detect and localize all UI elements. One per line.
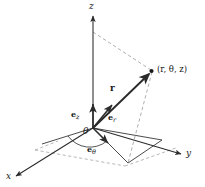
e-theta-subscript: θ [92, 148, 96, 156]
unit-vector-e-r-label: er [108, 113, 116, 122]
x-axis [16, 128, 93, 176]
figure-canvas [0, 0, 205, 187]
e-r-subscript: r [113, 116, 116, 124]
e-z-subscript: z [76, 113, 79, 121]
position-vector-r [93, 74, 149, 128]
point-coordinates-label: (r, θ, z) [157, 65, 187, 74]
point-marker-dot [149, 69, 153, 73]
position-vector-label: r [110, 84, 115, 93]
unit-vector-e-z-label: ez [71, 110, 80, 119]
z-axis-label: z [89, 2, 94, 11]
unit-vector-e-theta-label: eθ [87, 145, 96, 154]
point-label-text: (r, θ, z) [157, 64, 187, 74]
theta-angle-label: θ [83, 127, 88, 136]
x-axis-label: x [6, 172, 11, 181]
cylindrical-coordinates-figure: z y x (r, θ, z) r θ ez er eθ [0, 0, 205, 187]
y-axis-label: y [186, 149, 191, 158]
base-plane-solid-edges [42, 128, 162, 163]
z-height-dashed-line [93, 32, 151, 70]
